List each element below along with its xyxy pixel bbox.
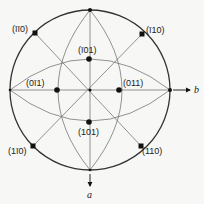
pole-label-011: (011) [123, 78, 143, 88]
axis-b: b [173, 84, 199, 95]
pole-label-m101: (ī01) [78, 45, 97, 55]
top-point [88, 8, 92, 12]
pole-label-110: (110) [142, 146, 162, 156]
right-point [168, 88, 172, 92]
left-point [9, 89, 12, 92]
pole-0m11-marker [54, 87, 60, 93]
pole-label-0m11: (0ī1) [26, 78, 45, 88]
pole-101-marker [86, 119, 92, 125]
stereographic-projection: (īī0) (ī10) (ī01) (0ī1) (011) (101) (1ī0… [0, 0, 204, 204]
pole-m101-marker [86, 56, 92, 62]
axis-b-label: b [194, 84, 199, 95]
pole-label-m110: (ī10) [146, 25, 165, 35]
bottom-point [89, 169, 92, 172]
pole-label-1m10: (1ī0) [8, 146, 27, 156]
pole-1m10-marker [31, 144, 36, 149]
pole-m110-marker [140, 32, 145, 37]
axis-a-label: a [87, 189, 92, 200]
center-point [89, 89, 92, 92]
pole-label-101: (101) [78, 127, 99, 137]
pole-011-marker [116, 87, 122, 93]
axis-a: a [87, 174, 92, 200]
pole-label-m1m10: (īī0) [12, 24, 28, 34]
pole-m1m10-marker [33, 31, 38, 36]
